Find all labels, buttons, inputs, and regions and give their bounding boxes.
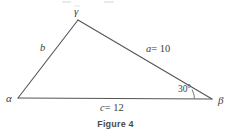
side-label-b: b bbox=[40, 43, 45, 54]
vertex-label-beta: β bbox=[218, 95, 223, 106]
side-label-c: c= 12 bbox=[100, 103, 124, 114]
side-c-value: = 12 bbox=[105, 102, 124, 113]
angle-label-30deg: 30° bbox=[178, 85, 191, 95]
triangle-diagram bbox=[0, 0, 231, 136]
side-a-value: = 10 bbox=[151, 43, 170, 54]
vertex-label-gamma: γ bbox=[74, 6, 78, 17]
angle-arc-icon bbox=[192, 90, 195, 99]
triangle-side-a bbox=[78, 20, 212, 99]
triangle-side-b bbox=[18, 20, 78, 98]
side-label-a: a= 10 bbox=[146, 44, 170, 55]
figure-caption: Figure 4 bbox=[0, 119, 231, 129]
figure-container: γ α β b a= 10 c= 12 30° Figure 4 bbox=[0, 0, 231, 136]
vertex-label-alpha: α bbox=[6, 93, 12, 104]
triangle-side-c bbox=[18, 98, 212, 99]
